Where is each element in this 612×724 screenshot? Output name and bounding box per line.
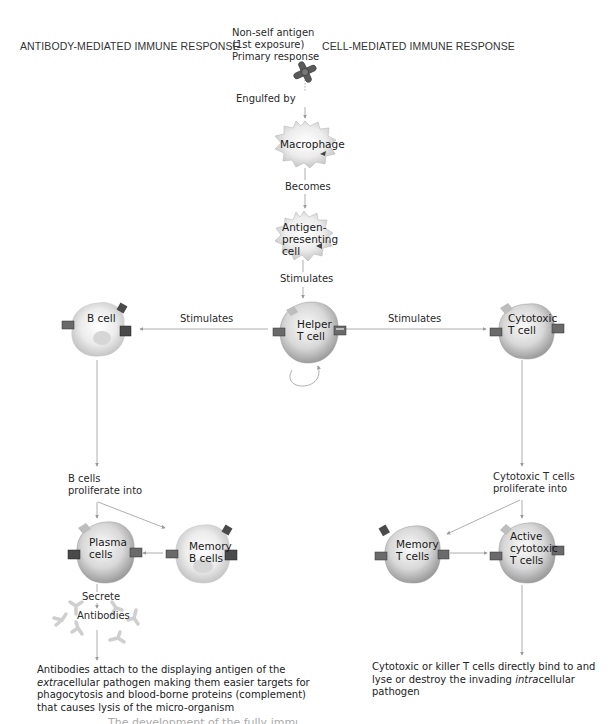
b-proliferate-line: B cells	[68, 473, 142, 485]
antigen-label-line: Non-self antigen	[232, 27, 319, 39]
outcome-text: cellular pathogen making them easier tar…	[63, 677, 310, 688]
plasma-label: Plasma cells	[89, 536, 127, 560]
engulfed-by-label: Engulfed by	[236, 93, 296, 105]
apc-label: Antigen- presenting cell	[282, 221, 338, 257]
active-cytotoxic-t-cell: Active cytotoxic T cells	[488, 518, 568, 588]
cytotoxic-t-label-line: T cell	[508, 324, 557, 336]
plasma-label-line: Plasma	[89, 536, 127, 548]
helper-t-label-line: T cell	[297, 330, 332, 342]
outcome-line: extracellular pathogen making them easie…	[37, 677, 310, 690]
apc-label-line: Antigen-	[282, 221, 338, 233]
stimulates-b-label: Stimulates	[180, 313, 233, 325]
antigen-label: Non-self antigen (1st exposure) Primary …	[232, 27, 319, 63]
outcome-text: lyse or destroy the invading	[372, 674, 515, 685]
antigen-label-line: (1st exposure)	[232, 39, 319, 51]
heading-antibody-mediated: ANTIBODY-MEDIATED IMMUNE RESPONSE	[20, 40, 240, 52]
outcome-italic: extra	[37, 677, 63, 688]
active-ct-label-line: cytotoxic	[510, 542, 558, 554]
b-cell-label: B cell	[87, 312, 116, 324]
b-cell: B cell	[60, 298, 136, 362]
antibodies-icon	[48, 596, 148, 648]
apc-label-line: cell	[282, 245, 338, 257]
b-proliferate-line: proliferate into	[68, 485, 142, 497]
helper-t-cell: Helper T cell	[270, 298, 350, 368]
outcome-line: Cytotoxic or killer T cells directly bin…	[372, 661, 612, 674]
cytotoxic-t-cell: Cytotoxic T cell	[488, 298, 568, 364]
plasma-label-line: cells	[89, 548, 127, 560]
plasma-cell: Plasma cells	[66, 518, 146, 588]
memory-b-label: Memory B cells	[189, 540, 232, 564]
active-ct-label: Active cytotoxic T cells	[510, 530, 558, 566]
heading-cell-mediated: CELL-MEDIATED IMMUNE RESPONSE	[322, 40, 515, 52]
memory-t-label-line: Memory	[396, 538, 439, 550]
b-cell-icon	[60, 298, 136, 362]
memory-b-label-line: B cells	[189, 552, 232, 564]
outcome-line: Antibodies attach to the displaying anti…	[37, 664, 310, 677]
stimulates-cytotoxic-label: Stimulates	[388, 313, 441, 325]
helper-t-label-line: Helper	[297, 318, 332, 330]
antigen-icon	[290, 60, 320, 84]
memory-t-cell: Memory T cells	[372, 520, 452, 588]
outcome-line: that causes lysis of the micro-organism	[37, 702, 310, 715]
helper-t-label: Helper T cell	[297, 318, 332, 342]
ct-proliferate-line: Cytotoxic T cells	[493, 471, 575, 483]
memory-t-label: Memory T cells	[396, 538, 439, 562]
antibodies-label: Antibodies	[77, 610, 130, 622]
antibody-outcome-description: Antibodies attach to the displaying anti…	[37, 664, 310, 714]
outcome-line: phagocytosis and blood-borne proteins (c…	[37, 689, 310, 702]
antigen-presenting-cell: Antigen- presenting cell	[272, 208, 336, 264]
cytotoxic-t-label-line: Cytotoxic	[508, 312, 557, 324]
figure-caption-fragment: The development of the fully immune syst…	[108, 716, 298, 724]
stimulates-helper-label: Stimulates	[280, 273, 333, 285]
ct-proliferate-line: proliferate into	[493, 483, 575, 495]
b-proliferate-label: B cells proliferate into	[68, 473, 142, 497]
becomes-label: Becomes	[285, 181, 331, 193]
apc-label-line: presenting	[282, 233, 338, 245]
ct-proliferate-label: Cytotoxic T cells proliferate into	[493, 471, 575, 495]
macrophage-label: Macrophage	[280, 138, 345, 150]
cell-mediated-outcome-description: Cytotoxic or killer T cells directly bin…	[372, 661, 612, 699]
memory-b-label-line: Memory	[189, 540, 232, 552]
active-ct-label-line: T cells	[510, 554, 558, 566]
outcome-line: lyse or destroy the invading intracellul…	[372, 674, 612, 699]
memory-t-label-line: T cells	[396, 550, 439, 562]
active-ct-label-line: Active	[510, 530, 558, 542]
macrophage-cell: Macrophage	[270, 118, 340, 170]
memory-b-cell: Memory B cells	[165, 520, 241, 588]
cytotoxic-t-label: Cytotoxic T cell	[508, 312, 557, 336]
outcome-italic: intra	[515, 674, 538, 685]
